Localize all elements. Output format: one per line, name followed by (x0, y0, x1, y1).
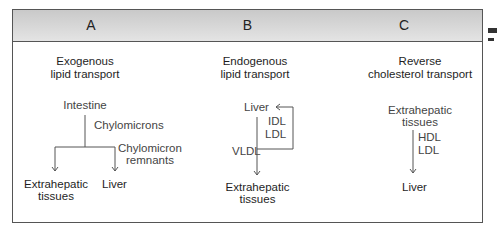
page-edge-mark (488, 38, 494, 41)
panel-b-return-loop (257, 107, 293, 149)
flow-arrows (0, 0, 497, 231)
page-edge-mark (488, 28, 497, 33)
